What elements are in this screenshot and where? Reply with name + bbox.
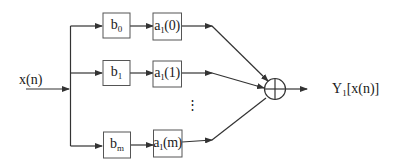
diag-row1 xyxy=(212,73,264,88)
bm-label: bm xyxy=(103,137,131,151)
am-out xyxy=(182,140,212,142)
a0-sub: 1 xyxy=(160,25,164,35)
b1-main: b xyxy=(111,64,118,79)
output-sub: 1 xyxy=(342,88,347,98)
b0-main: b xyxy=(111,17,118,32)
b1-sub: 1 xyxy=(118,71,123,81)
b1-label: b1 xyxy=(103,65,130,79)
input-label: x(n) xyxy=(19,73,42,87)
output-main: Y xyxy=(332,81,342,96)
a0-arg: (0) xyxy=(164,18,179,33)
b0-sub: 0 xyxy=(118,24,123,34)
a1-label: a1(1) xyxy=(152,66,182,80)
bm-sub: m xyxy=(117,143,124,153)
vertical-ellipsis: ⋮ xyxy=(186,98,199,111)
am-label: a1(m) xyxy=(152,136,183,150)
b0-label: b0 xyxy=(103,18,130,32)
diag-row0 xyxy=(212,26,268,81)
ellipsis-text: ⋮ xyxy=(186,97,199,112)
bm-main: b xyxy=(110,136,117,151)
a1-sub: 1 xyxy=(160,72,164,82)
am-sub: 1 xyxy=(159,142,163,152)
output-label: Y1[x(n)] xyxy=(332,82,379,96)
a1-arg: (1) xyxy=(164,65,179,80)
output-rest: [x(n)] xyxy=(347,81,380,96)
a0-label: a1(0) xyxy=(152,19,182,33)
diag-rowm xyxy=(212,98,266,140)
am-arg: (m) xyxy=(163,135,182,150)
block-diagram: x(n) b0 b1 bm a1(0) a1(1) a1(m) ⋮ Y1[x(n… xyxy=(0,0,397,166)
input-label-text: x(n) xyxy=(19,72,42,87)
